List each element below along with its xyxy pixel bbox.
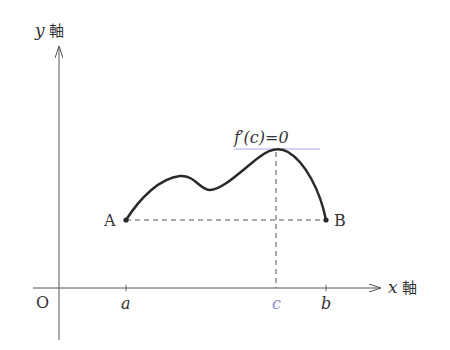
origin-label: O bbox=[36, 293, 49, 312]
rolle-theorem-diagram: y軸 x軸 O a c b f′(c)=0 A B bbox=[0, 0, 450, 350]
point-b-label: B bbox=[334, 211, 346, 230]
y-axis-label: y軸 bbox=[34, 20, 64, 40]
point-b bbox=[323, 217, 328, 222]
point-a bbox=[123, 217, 128, 222]
tick-label-a: a bbox=[121, 294, 131, 313]
tick-label-c: c bbox=[272, 294, 281, 313]
tick-label-b: b bbox=[321, 294, 331, 313]
x-axis-label: x軸 bbox=[388, 277, 417, 297]
tangent-annotation: f′(c)=0 bbox=[233, 128, 289, 147]
function-curve bbox=[126, 149, 326, 220]
point-a-label: A bbox=[103, 211, 116, 230]
